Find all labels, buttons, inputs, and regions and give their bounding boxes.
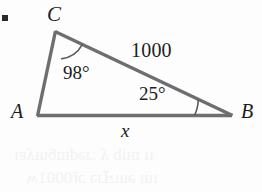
vertex-label-A: A bbox=[11, 101, 23, 121]
side-length-label-1000: 1000 bbox=[131, 40, 172, 60]
triangle-figure bbox=[0, 0, 262, 192]
angle-label-25-degrees: 25° bbox=[139, 84, 166, 103]
vertex-label-B: B bbox=[241, 101, 253, 121]
angle-arc-at-B bbox=[195, 99, 199, 115]
angle-label-98-degrees: 98° bbox=[63, 63, 90, 82]
vertex-label-C: C bbox=[47, 4, 61, 25]
figure-page: C A B 1000 x 98° 25° ıı ɒıib ʎ ːɹədɯƃuıʎ… bbox=[0, 0, 262, 192]
angle-arc-at-C bbox=[61, 44, 82, 59]
side-length-label-x: x bbox=[121, 121, 129, 140]
side-AC-line bbox=[38, 31, 56, 116]
